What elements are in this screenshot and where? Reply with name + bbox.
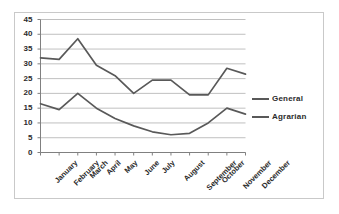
y-axis-label: 15: [17, 104, 33, 112]
y-axis-label: 45: [17, 16, 33, 24]
y-axis-label: 0: [17, 149, 33, 157]
series-line-general: [41, 39, 246, 95]
y-axis-label: 35: [17, 45, 33, 53]
legend-label: Agrarian: [272, 112, 307, 121]
legend-label: General: [272, 94, 303, 103]
y-axis-label: 20: [17, 89, 33, 97]
legend-item-agrarian: Agrarian: [252, 112, 307, 121]
chart-container: 051015202530354045 JanuaryFebruaryMarchA…: [0, 0, 339, 214]
legend-item-general: General: [252, 94, 303, 103]
y-axis-label: 30: [17, 60, 33, 68]
line-chart: [0, 0, 339, 214]
legend-swatch-agrarian: [252, 116, 269, 118]
y-axis-label: 10: [17, 119, 33, 127]
y-axis-label: 40: [17, 30, 33, 38]
series-line-agrarian: [41, 93, 246, 134]
y-axis-label: 5: [17, 134, 33, 142]
y-axis-label: 25: [17, 75, 33, 83]
legend-swatch-general: [252, 98, 269, 100]
